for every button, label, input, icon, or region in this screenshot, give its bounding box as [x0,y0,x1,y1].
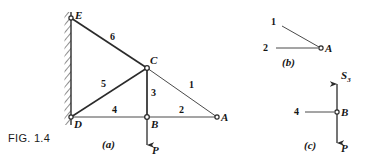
joint-D [69,115,73,119]
force-label-4-c: 4 [294,107,299,117]
load-label-P: P [152,145,159,156]
force-label-S3: S3 [341,70,351,84]
joint-A-b [319,46,323,50]
force-label-S3-subscript: 3 [347,76,351,84]
subfigure-caption-c: (c) [304,140,316,151]
member-label-6: 6 [110,32,115,42]
joint-B-c [335,110,339,114]
force-label-2-b: 2 [263,43,268,53]
joint-label-A-b: A [325,43,332,54]
joint-B [145,115,150,120]
figure-1-4: FIG. 1.4 E C D B A 1 2 3 4 5 6 P (a) 1 2… [0,0,367,166]
member-label-1: 1 [189,80,194,90]
panel-c-joint-b [305,84,339,143]
panel-b-joint-a [276,26,323,50]
joint-E [69,16,73,20]
force-label-P-c: P [341,143,348,154]
joint-A [215,115,219,119]
joint-label-A: A [221,112,228,123]
joint-C [145,66,150,71]
subfigure-caption-a: (a) [102,139,115,150]
force-line-1 [282,26,319,47]
joint-label-B-c: B [341,107,348,118]
subfigure-caption-b: (b) [282,57,295,68]
member-label-5: 5 [101,79,106,89]
member-6 [71,18,147,68]
member-label-4: 4 [112,105,117,115]
figure-caption: FIG. 1.4 [8,132,50,144]
joint-label-C: C [150,55,157,66]
joint-label-E: E [75,10,82,21]
joint-label-B: B [151,119,158,130]
member-label-2: 2 [179,105,184,115]
panel-a-truss [65,12,220,145]
wall-support-icon [65,12,72,125]
joint-label-D: D [74,119,82,130]
member-5 [71,68,147,117]
member-label-3: 3 [151,88,156,98]
force-label-1-b: 1 [271,17,276,27]
